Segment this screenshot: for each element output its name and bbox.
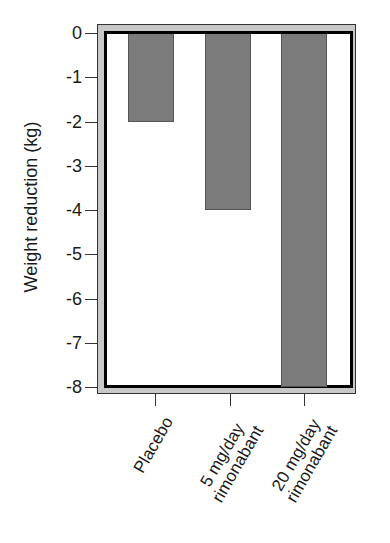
bar-1 [128, 34, 174, 122]
plot-area [104, 31, 353, 388]
y-tick-label: 0 [22, 24, 82, 42]
y-tick [85, 343, 97, 344]
y-tick [85, 210, 97, 211]
x-tick-label: 5 mg/dayrimonabant [194, 414, 268, 506]
y-tick [85, 254, 97, 255]
bar-2 [205, 34, 251, 210]
y-tick-label: -6 [22, 290, 82, 308]
y-tick [85, 387, 97, 388]
y-tick [85, 122, 97, 123]
y-tick-label: -8 [22, 378, 82, 396]
y-tick-label: -7 [22, 334, 82, 352]
bar-3 [281, 34, 327, 387]
y-tick [85, 33, 97, 34]
x-tick [304, 394, 305, 406]
x-tick [230, 394, 231, 406]
y-tick-label: -1 [22, 68, 82, 86]
y-axis-title: Weight reduction (kg) [21, 122, 42, 293]
x-tick-label: 20 mg/dayrimonabant [268, 414, 342, 506]
x-tick [155, 394, 156, 406]
y-tick [85, 77, 97, 78]
y-tick [85, 166, 97, 167]
y-tick [85, 299, 97, 300]
x-tick-label: Placebo [131, 414, 177, 476]
